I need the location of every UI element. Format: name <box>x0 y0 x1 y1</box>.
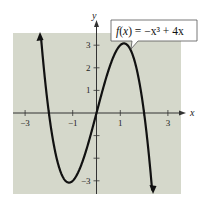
function-graph: −3−113321−3 x y f(x) = −x³ + 4x <box>0 0 209 206</box>
callout-expr: −x³ + 4x <box>144 25 184 37</box>
callout-eq: ) = <box>128 25 144 38</box>
y-tick-label: 3 <box>86 40 91 50</box>
x-axis-label: x <box>189 107 195 118</box>
callout-label: f(x) = −x³ + 4x <box>116 25 184 38</box>
x-tick-label: 1 <box>118 118 123 128</box>
x-tick-label: −1 <box>68 118 78 128</box>
x-axis-arrow-icon <box>179 111 186 116</box>
x-tick-label: −3 <box>20 118 30 128</box>
x-tick-label: 3 <box>166 118 171 128</box>
y-axis-label: y <box>91 10 97 21</box>
y-tick-label: −3 <box>81 176 91 186</box>
y-tick-label: 2 <box>86 63 91 73</box>
y-tick-label: 1 <box>86 85 91 95</box>
y-axis-arrow-icon <box>94 20 99 27</box>
